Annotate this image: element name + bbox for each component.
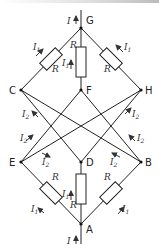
node-label-e: E	[9, 157, 15, 168]
node-label-b: B	[145, 157, 152, 168]
resistor-fg	[76, 47, 86, 77]
svg-text:R: R	[69, 40, 77, 50]
resistor-ea	[40, 182, 63, 205]
node-label-d: D	[86, 157, 94, 168]
svg-text:R: R	[103, 172, 111, 182]
svg-text:R: R	[51, 172, 59, 182]
svg-text:I2: I2	[109, 157, 118, 168]
svg-text:I1: I1	[30, 204, 38, 215]
svg-text:R: R	[69, 200, 77, 210]
svg-text:I1: I1	[32, 42, 40, 53]
svg-text:I2: I2	[19, 133, 28, 144]
node-label-f: F	[86, 85, 92, 96]
resistor-ba	[100, 182, 123, 205]
svg-text:R: R	[51, 64, 59, 74]
circuit-diagram: G C F H E D B A I I R R R R R R I1 I1 I1…	[0, 0, 159, 248]
node-label-c: C	[9, 85, 16, 96]
svg-text:I1: I1	[121, 204, 129, 215]
resistor-da	[76, 174, 86, 204]
svg-text:R: R	[103, 64, 111, 74]
svg-text:I1: I1	[61, 58, 69, 69]
svg-text:I2: I2	[131, 109, 140, 120]
svg-text:I2: I2	[41, 157, 50, 168]
svg-text:I2: I2	[21, 109, 30, 120]
svg-text:I: I	[66, 236, 71, 246]
node-label-a: A	[86, 224, 93, 235]
svg-text:I: I	[66, 16, 71, 26]
svg-text:I2: I2	[136, 133, 145, 144]
node-label-h: H	[145, 85, 153, 96]
resistor-cg	[40, 48, 63, 71]
svg-text:I1: I1	[61, 189, 69, 200]
node-label-g: G	[86, 15, 94, 26]
svg-text:I1: I1	[123, 42, 131, 53]
